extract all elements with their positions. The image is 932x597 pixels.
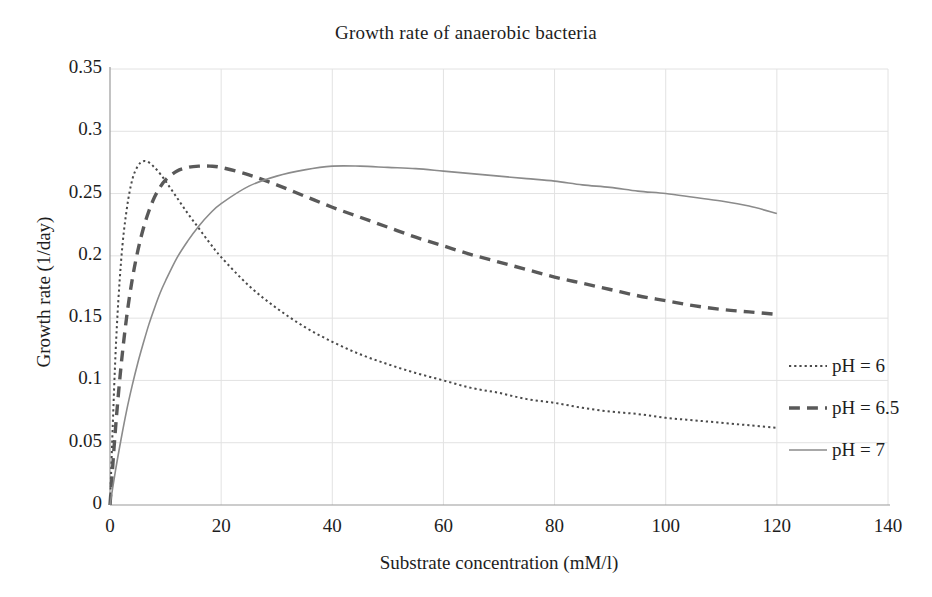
legend-item-2[interactable]: pH = 6.5 — [788, 387, 928, 429]
legend-line-solid-icon — [788, 443, 828, 457]
x-tick-label: 80 — [520, 515, 590, 537]
legend-label: pH = 6.5 — [832, 397, 899, 419]
x-tick-label: 120 — [742, 515, 812, 537]
y-tick-label: 0.05 — [38, 430, 102, 452]
y-tick-label: 0 — [38, 492, 102, 514]
legend-line-dotted-icon — [788, 359, 828, 373]
x-tick-label: 60 — [408, 515, 478, 537]
legend-item-3[interactable]: pH = 7 — [788, 429, 928, 471]
x-tick-label: 100 — [631, 515, 701, 537]
x-tick-label: 40 — [297, 515, 367, 537]
x-tick-label: 20 — [186, 515, 256, 537]
chart-legend: pH = 6pH = 6.5pH = 7 — [788, 345, 928, 471]
y-tick-label: 0.1 — [38, 367, 102, 389]
legend-label: pH = 7 — [832, 439, 885, 461]
y-tick-label: 0.15 — [38, 305, 102, 327]
legend-line-dashed-icon — [788, 401, 828, 415]
plot-area — [0, 0, 932, 597]
y-tick-label: 0.3 — [38, 118, 102, 140]
y-tick-label: 0.35 — [38, 56, 102, 78]
y-tick-label: 0.2 — [38, 243, 102, 265]
legend-label: pH = 6 — [832, 355, 885, 377]
x-tick-label: 0 — [75, 515, 145, 537]
grid-lines — [110, 69, 888, 505]
chart-figure: Growth rate of anaerobic bacteria Growth… — [0, 0, 932, 597]
legend-item-1[interactable]: pH = 6 — [788, 345, 928, 387]
x-tick-label: 140 — [853, 515, 923, 537]
axis-lines — [110, 67, 890, 505]
y-tick-label: 0.25 — [38, 181, 102, 203]
